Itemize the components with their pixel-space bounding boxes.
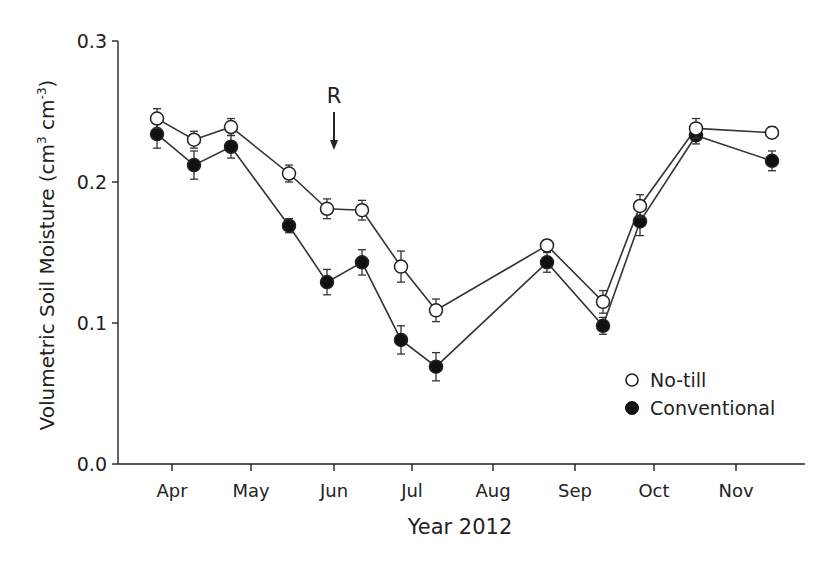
y-ticks: 0.00.10.20.3 xyxy=(77,30,118,475)
open-circle-marker-icon xyxy=(395,260,408,273)
open-circle-marker-icon xyxy=(430,304,443,317)
x-tick-label: Nov xyxy=(718,480,753,501)
arrow-head-icon xyxy=(330,140,338,150)
conventional-data-point xyxy=(321,269,334,294)
filled-circle-marker-icon xyxy=(356,256,369,269)
no-till-data-point xyxy=(395,251,408,282)
x-axis-label: Year 2012 xyxy=(407,515,513,539)
x-tick-label: Aug xyxy=(475,480,510,501)
no-till-line xyxy=(157,119,772,311)
no-till-data-point xyxy=(541,239,554,252)
open-circle-marker-icon xyxy=(356,204,369,217)
filled-circle-marker-icon xyxy=(430,360,443,373)
no-till-data-point xyxy=(430,299,443,322)
x-tick-label: Oct xyxy=(638,480,669,501)
no-till-data-point xyxy=(597,291,610,314)
open-circle-marker-icon xyxy=(766,126,779,139)
open-circle-marker-icon xyxy=(541,239,554,252)
open-circle-marker-icon xyxy=(634,199,647,212)
y-tick-label: 0.2 xyxy=(77,171,107,193)
filled-circle-marker-icon xyxy=(283,219,296,232)
x-tick-label: Jul xyxy=(400,480,423,501)
legend-filled-circle-icon xyxy=(626,402,639,415)
filled-circle-marker-icon xyxy=(766,154,779,167)
x-tick-label: Jun xyxy=(319,480,348,501)
filled-circle-marker-icon xyxy=(597,319,610,332)
open-circle-marker-icon xyxy=(321,202,334,215)
no-till-data-point xyxy=(766,126,779,139)
conventional-data-point xyxy=(283,219,296,233)
soil-moisture-chart: 0.00.10.20.3 AprMayJunJulAugSepOctNov Ye… xyxy=(0,0,831,568)
filled-circle-marker-icon xyxy=(395,333,408,346)
r-label: R xyxy=(327,84,342,108)
no-till-data-point xyxy=(188,131,201,148)
open-circle-marker-icon xyxy=(690,122,703,135)
x-tick-label: Sep xyxy=(558,480,592,501)
x-tick-label: Apr xyxy=(156,480,188,501)
conventional-data-point xyxy=(541,253,554,273)
conventional-data-point xyxy=(225,135,238,158)
legend-open-circle-icon xyxy=(626,374,638,386)
legend-label-conventional: Conventional xyxy=(650,397,775,419)
axes: 0.00.10.20.3 AprMayJunJulAugSepOctNov xyxy=(77,30,805,501)
x-tick-label: May xyxy=(232,480,270,501)
x-ticks: AprMayJunJulAugSepOctNov xyxy=(156,464,753,501)
filled-circle-marker-icon xyxy=(321,276,334,289)
filled-circle-marker-icon xyxy=(225,140,238,153)
y-tick-label: 0.0 xyxy=(77,453,107,475)
legend: No-till Conventional xyxy=(626,369,776,419)
open-circle-marker-icon xyxy=(283,167,296,180)
open-circle-marker-icon xyxy=(225,121,238,134)
open-circle-marker-icon xyxy=(597,295,610,308)
no-till-data-point xyxy=(283,165,296,182)
series-lines xyxy=(157,119,772,367)
no-till-data-point xyxy=(225,119,238,136)
conventional-data-point xyxy=(766,151,779,171)
conventional-line xyxy=(157,134,772,367)
y-axis-label: Volumetric Soil Moisture (cm3 cm-3) xyxy=(35,80,59,431)
filled-circle-marker-icon xyxy=(188,159,201,172)
no-till-data-point xyxy=(151,109,164,129)
conventional-data-point xyxy=(430,353,443,381)
r-annotation: R xyxy=(327,84,342,150)
conventional-data-point xyxy=(188,151,201,179)
y-tick-label: 0.3 xyxy=(77,30,107,52)
legend-label-no-till: No-till xyxy=(650,369,706,391)
no-till-data-point xyxy=(321,199,334,219)
open-circle-marker-icon xyxy=(151,112,164,125)
filled-circle-marker-icon xyxy=(541,256,554,269)
filled-circle-marker-icon xyxy=(151,128,164,141)
open-circle-marker-icon xyxy=(188,133,201,146)
y-tick-label: 0.1 xyxy=(77,312,107,334)
